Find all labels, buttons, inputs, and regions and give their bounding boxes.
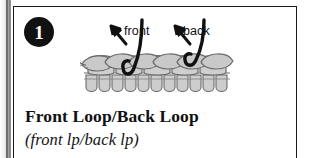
figure-title: Front Loop/Back Loop: [25, 106, 199, 127]
page-gutter-line: [6, 0, 8, 158]
stitch-lower-row: [86, 75, 227, 92]
back-loop-label: back: [183, 24, 210, 38]
crochet-stitch-illustration: [80, 18, 240, 100]
figure-abbreviation: (front lp/back lp): [25, 130, 139, 150]
pointer-arrows: [111, 26, 190, 44]
figure-panel: 1: [0, 0, 316, 158]
step-number-badge: 1: [24, 17, 54, 47]
front-loop-label: front: [124, 24, 150, 38]
